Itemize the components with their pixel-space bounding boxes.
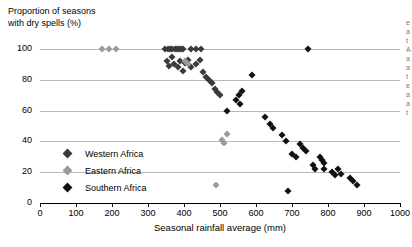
data-point (305, 45, 312, 52)
y-tick-label-60: 60 (2, 105, 32, 115)
x-tick-300 (148, 203, 149, 207)
x-tick-label-200: 200 (92, 208, 132, 218)
gridline-y-60 (40, 111, 400, 112)
legend-label-southern-africa: Southern Africa (85, 183, 147, 193)
legend-marker-icon-southern-africa (63, 183, 73, 193)
y-axis-title: Proportion of seasons with dry spells (%… (8, 6, 96, 29)
data-point (224, 130, 231, 137)
y-tick-label-80: 80 (2, 74, 32, 84)
cropped-neighbour-text: e a t A a a t e a a t (406, 18, 412, 168)
x-tick-label-1000: 1000 (380, 208, 412, 218)
legend-item-eastern-africa: Eastern Africa (60, 162, 147, 179)
x-tick-700 (292, 203, 293, 207)
scatter-chart: Proportion of seasons with dry spells (%… (0, 0, 412, 247)
x-tick-label-0: 0 (20, 208, 60, 218)
legend-item-southern-africa: Southern Africa (60, 179, 147, 196)
gridline-y-80 (40, 80, 400, 81)
data-point (198, 45, 205, 52)
x-tick-label-500: 500 (200, 208, 240, 218)
data-point (113, 45, 120, 52)
x-tick-label-900: 900 (344, 208, 384, 218)
y-tick-label-100: 100 (2, 43, 32, 53)
x-tick-500 (220, 203, 221, 207)
x-tick-label-300: 300 (128, 208, 168, 218)
x-tick-label-100: 100 (56, 208, 96, 218)
gridline-y-100 (40, 49, 400, 50)
x-tick-label-800: 800 (308, 208, 348, 218)
data-point (224, 107, 231, 114)
y-tick-label-20: 20 (2, 166, 32, 176)
x-tick-0 (40, 203, 41, 207)
x-tick-label-400: 400 (164, 208, 204, 218)
chart-legend: Western Africa Eastern Africa Southern A… (60, 145, 147, 196)
y-tick-label-40: 40 (2, 135, 32, 145)
data-point (98, 45, 105, 52)
x-tick-1000 (400, 203, 401, 207)
data-point (270, 124, 277, 131)
legend-marker-icon-western-africa (63, 149, 73, 159)
y-tick-label-0: 0 (2, 197, 32, 207)
data-point (285, 187, 292, 194)
data-point (261, 113, 268, 120)
legend-label-eastern-africa: Eastern Africa (85, 166, 141, 176)
legend-marker-icon-eastern-africa (63, 166, 73, 176)
data-point (213, 181, 220, 188)
x-tick-100 (76, 203, 77, 207)
data-point (249, 72, 256, 79)
legend-item-western-africa: Western Africa (60, 145, 147, 162)
x-axis-title: Seasonal rainfall average (mm) (40, 222, 400, 233)
x-tick-400 (184, 203, 185, 207)
x-tick-200 (112, 203, 113, 207)
x-tick-800 (328, 203, 329, 207)
data-point (216, 92, 223, 99)
x-tick-600 (256, 203, 257, 207)
x-tick-label-600: 600 (236, 208, 276, 218)
data-point (283, 138, 290, 145)
legend-label-western-africa: Western Africa (85, 149, 143, 159)
x-tick-900 (364, 203, 365, 207)
x-tick-label-700: 700 (272, 208, 312, 218)
data-point (237, 101, 244, 108)
